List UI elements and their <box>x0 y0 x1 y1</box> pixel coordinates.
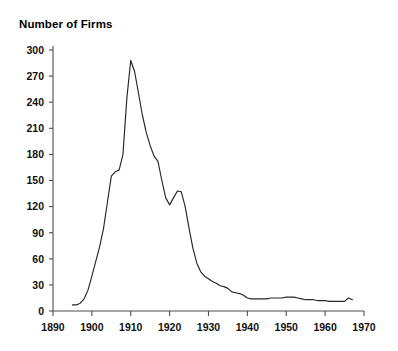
y-axis-tick-marks <box>49 50 53 311</box>
y-tick-label: 0 <box>38 305 44 317</box>
y-tick-label: 90 <box>32 227 44 239</box>
y-tick-label: 30 <box>32 279 44 291</box>
y-tick-label: 180 <box>26 148 44 160</box>
x-tick-label: 1950 <box>275 321 299 333</box>
x-tick-label: 1970 <box>352 321 376 333</box>
y-tick-label: 120 <box>26 200 44 212</box>
x-tick-label: 1940 <box>236 321 260 333</box>
x-tick-label: 1920 <box>158 321 182 333</box>
y-axis-tick-labels: 0306090120150180210240270300 <box>26 44 44 317</box>
y-tick-label: 210 <box>26 122 44 134</box>
x-tick-label: 1900 <box>80 321 104 333</box>
x-tick-label: 1930 <box>197 321 221 333</box>
y-tick-label: 270 <box>26 70 44 82</box>
x-tick-label: 1910 <box>119 321 143 333</box>
line-chart-plot: 0306090120150180210240270300 18901900191… <box>0 0 398 351</box>
y-tick-label: 60 <box>32 253 44 265</box>
x-axis-tick-labels: 189019001910192019301940195019601970 <box>41 321 376 333</box>
chart-container: Number of Firms 030609012015018021024027… <box>0 0 398 351</box>
y-tick-label: 300 <box>26 44 44 56</box>
data-series-line <box>72 60 352 304</box>
x-tick-label: 1890 <box>41 321 65 333</box>
y-tick-label: 240 <box>26 96 44 108</box>
y-tick-label: 150 <box>26 174 44 186</box>
x-axis-tick-marks <box>53 311 364 316</box>
x-tick-label: 1960 <box>313 321 337 333</box>
